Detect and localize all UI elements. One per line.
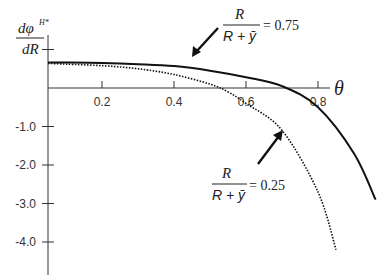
arrow-head-icon	[273, 130, 283, 141]
annotation-075-denominator: R + ȳ	[223, 28, 257, 44]
annotation-075: R R + ȳ = 0.75	[192, 6, 299, 57]
x-axis-label: θ	[334, 77, 344, 99]
y-axis-label: dφ H* dR	[16, 18, 49, 57]
annotation-025-numerator: R	[221, 165, 231, 181]
y-tick-label: -2.0	[15, 158, 36, 172]
x-tick-label: 0.6	[238, 95, 255, 109]
annotation-025-denominator: R + ȳ	[212, 187, 246, 203]
curves	[48, 63, 376, 250]
y-tick-label: -4.0	[15, 235, 36, 249]
x-tick-label: 0.2	[94, 95, 111, 109]
y-label-superscript: H*	[38, 18, 49, 27]
axes: -1.0-2.0-3.0-4.00.20.40.60.8	[15, 35, 330, 275]
annotation-075-numerator: R	[234, 6, 244, 22]
y-tick-label: -1.0	[15, 120, 36, 134]
annotation-075-value: = 0.75	[263, 18, 299, 33]
y-label-denominator: dR	[22, 41, 39, 57]
y-label-numerator: dφ	[18, 20, 34, 36]
y-tick-label: -3.0	[15, 197, 36, 211]
annotation-025-arrow	[258, 136, 279, 164]
chart: -1.0-2.0-3.0-4.00.20.40.60.8 dφ H* dR θ …	[0, 0, 390, 280]
annotation-075-arrow	[196, 28, 218, 52]
annotation-025: R R + ȳ = 0.25	[212, 130, 285, 203]
annotation-025-value: = 0.25	[249, 178, 285, 193]
series-075-solid-line	[48, 63, 376, 200]
x-tick-label: 0.4	[166, 95, 183, 109]
